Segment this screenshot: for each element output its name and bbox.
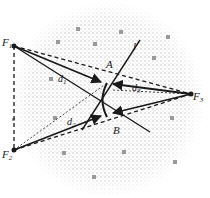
label-b: B [113, 124, 120, 136]
label-f2: F2 [1, 148, 13, 162]
label-line-l: l [133, 40, 136, 52]
label-a: A [105, 58, 113, 70]
force-diagram: F1 F2 F3 A B l d1 d2 d3 [0, 0, 210, 198]
label-f1: F1 [1, 36, 12, 50]
